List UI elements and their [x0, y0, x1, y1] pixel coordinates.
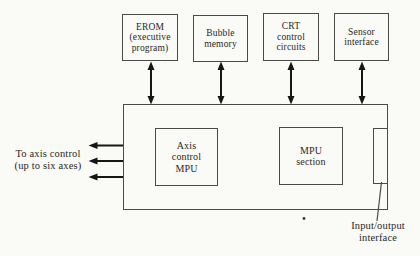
stray-dot — [303, 217, 306, 220]
bubble-memory-line: Bubble — [206, 28, 234, 39]
axis-control-mpu-line: control — [172, 151, 201, 163]
erom-box-line: (executive — [129, 32, 170, 43]
erom-box-line: program) — [132, 43, 169, 54]
io-interface-label-line: Input/output — [336, 220, 420, 232]
mpu-section-line: MPU — [300, 145, 322, 157]
mpu-section-line: section — [296, 156, 325, 168]
crt-control-line: circuits — [276, 42, 305, 53]
axis-control-label-line: (up to six axes) — [6, 160, 90, 172]
crt-control-line: control — [277, 32, 305, 43]
io-interface-label: Input/output interface — [336, 220, 420, 243]
bubble-memory-box: Bubble memory — [193, 15, 248, 62]
axis-output-arrow-3 — [89, 174, 124, 181]
mpu-section-box: MPU section — [279, 127, 343, 185]
axis-control-mpu-line: Axis — [177, 140, 197, 152]
bus-arrow-bubble — [218, 62, 225, 105]
axis-control-mpu-box: Axis control MPU — [155, 128, 218, 186]
bus-arrow-erom — [148, 62, 155, 105]
erom-box-line: EROM — [136, 22, 164, 33]
bus-arrow-sensor — [359, 62, 366, 105]
axis-control-mpu-line: MPU — [175, 163, 197, 175]
sensor-interface-line: Sensor — [348, 27, 375, 38]
axis-control-label-line: To axis control — [6, 148, 90, 160]
crt-control-line: CRT — [282, 21, 300, 32]
axis-output-arrow-1 — [89, 142, 124, 149]
sensor-interface-line: interface — [344, 37, 379, 48]
bubble-memory-line: memory — [204, 39, 237, 50]
block-diagram: EROM (executive program) Bubble memory C… — [0, 0, 420, 256]
axis-control-label: To axis control (up to six axes) — [6, 148, 90, 171]
sensor-interface-box: Sensor interface — [334, 13, 389, 61]
axis-output-arrow-2 — [89, 158, 124, 165]
io-interface-box — [373, 128, 388, 184]
erom-box: EROM (executive program) — [122, 14, 178, 61]
io-interface-label-line: interface — [336, 232, 420, 244]
crt-control-box: CRT control circuits — [263, 13, 319, 61]
bus-arrow-crt — [288, 62, 295, 105]
